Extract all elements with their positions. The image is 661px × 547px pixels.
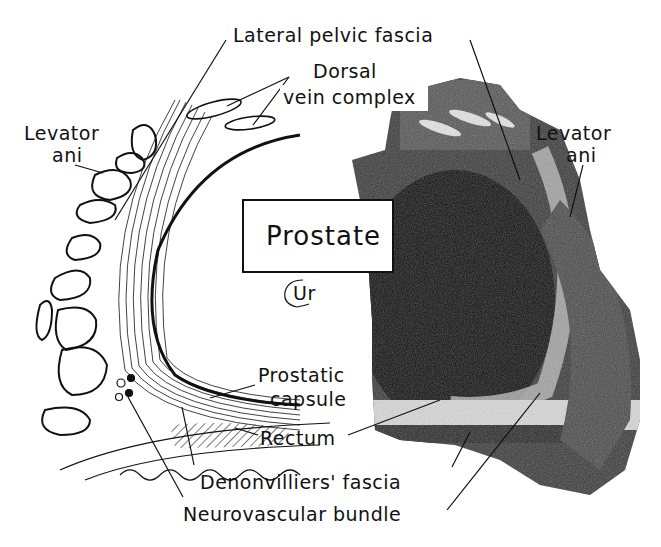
label-levator-ani-right-2: ani [566,144,596,166]
label-neurovascular-bundle: Neurovascular bundle [183,503,401,525]
label-prostatic-capsule-2: capsule [270,388,347,410]
anatomy-figure: Lateral pelvic fascia Dorsal vein comple… [0,0,661,547]
label-urethra: Ur [293,282,316,304]
label-denonvilliers-fascia: Denonvilliers' fascia [200,471,401,493]
neurovascular-bundle-dots [116,375,135,401]
label-dorsal-vein-complex-2: vein complex [283,86,416,108]
label-prostatic-capsule-1: Prostatic [258,364,345,386]
label-levator-ani-left-1: Levator [24,122,99,144]
label-levator-ani-right-1: Levator [536,122,611,144]
label-dorsal-vein-complex-1: Dorsal [313,60,377,82]
label-prostate: Prostate [266,221,381,251]
label-rectum: Rectum [260,427,335,449]
label-lateral-pelvic-fascia: Lateral pelvic fascia [233,24,433,46]
label-levator-ani-left-2: ani [52,144,82,166]
